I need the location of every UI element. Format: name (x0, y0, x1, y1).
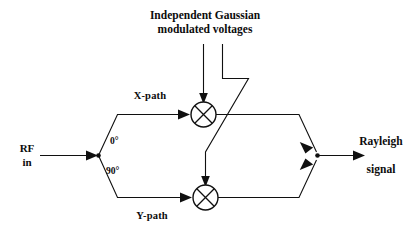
combiner-upper-arrowhead (300, 142, 313, 154)
upper-branch-phase-label: 0° (110, 136, 119, 146)
output-label-line-2: signal (367, 163, 396, 176)
rf-input-label-line-2: in (22, 156, 31, 168)
x-path-output-wire (216, 115, 317, 154)
y-path-label: Y-path (136, 210, 168, 221)
rayleigh-fading-block-diagram: Independent Gaussian modulated voltages … (0, 0, 411, 240)
rf-input-wire (40, 151, 98, 161)
x-path-mixer-input-arrowhead (178, 110, 190, 120)
upper-branch-wire (99, 110, 191, 156)
diagram-canvas: Independent Gaussian modulated voltages … (0, 0, 411, 240)
output-label-line-1: Rayleigh (359, 135, 403, 148)
y-path-mixer[interactable] (193, 185, 218, 210)
rf-input-arrowhead (86, 151, 98, 161)
lower-branch-phase-label: 90° (106, 166, 120, 176)
x-path-mixer[interactable] (191, 102, 216, 127)
y-path-mixer-input-arrowhead (180, 193, 192, 203)
rf-input-label-line-1: RF (20, 142, 35, 154)
x-path-label: X-path (134, 90, 167, 101)
y-path-output-wire (218, 158, 317, 197)
output-wire (318, 151, 366, 161)
output-arrowhead (353, 151, 365, 161)
gaussian-source-title-line-2: modulated voltages (158, 23, 253, 36)
lower-branch-wire (99, 156, 193, 203)
combiner-lower-arrowhead (300, 158, 313, 170)
gaussian-source-title-line-1: Independent Gaussian (150, 9, 261, 22)
gaussian-feed-x-path (199, 44, 208, 104)
